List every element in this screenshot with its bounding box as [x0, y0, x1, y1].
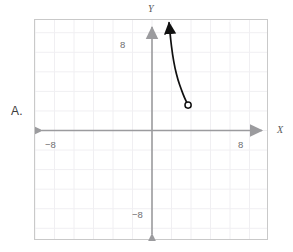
coordinate-plane [34, 19, 268, 240]
y-axis-label: Y [148, 3, 154, 14]
y-tick-label-negative: −8 [132, 209, 143, 220]
x-axis-label: X [277, 124, 283, 135]
plot-svg [35, 20, 269, 241]
axes-and-curve-layer [35, 20, 267, 239]
y-tick-label-positive: 8 [120, 39, 125, 50]
graph-question-panel: A. Y X 8 −8 −8 8 [0, 0, 293, 252]
function-curve [169, 23, 191, 108]
x-tick-label-positive: 8 [238, 139, 243, 150]
axes-group [42, 27, 262, 234]
x-tick-label-negative: −8 [45, 139, 56, 150]
choice-label: A. [11, 104, 23, 118]
